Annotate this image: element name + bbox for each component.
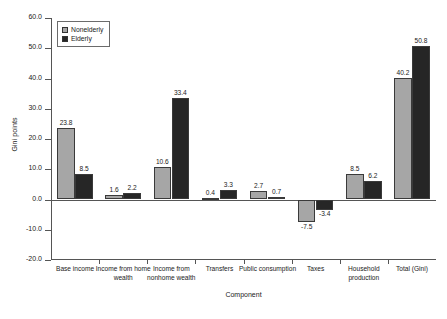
x-axis-tick	[340, 260, 341, 264]
x-axis-tick	[244, 260, 245, 264]
x-axis-title: Component	[51, 291, 436, 298]
legend-swatch-icon-nonelderly	[62, 27, 68, 33]
bar-value-label: -7.5	[294, 223, 320, 231]
bar	[172, 98, 190, 199]
bar-group: 1.62.2	[99, 18, 147, 260]
x-axis-tick	[195, 260, 196, 264]
legend-label-elderly: Elderly	[71, 35, 92, 42]
bar-group: 8.56.2	[340, 18, 388, 260]
x-axis-tick	[388, 260, 389, 264]
bar	[364, 181, 382, 200]
y-axis-tick-label: 20.0	[28, 134, 42, 141]
bar	[75, 174, 93, 200]
bar	[123, 193, 141, 200]
bar	[202, 198, 220, 200]
y-axis-tick-label: 60.0	[28, 13, 42, 20]
bar-group: 2.70.7	[244, 18, 292, 260]
bar-value-label: 3.3	[216, 181, 242, 189]
y-axis-tick-label: 30.0	[28, 104, 42, 111]
y-axis-tick-label: -10.0	[26, 225, 42, 232]
y-axis-tick: -20.0	[45, 260, 51, 261]
y-axis-tick-label: 0.0	[32, 195, 42, 202]
bar-value-label: 0.7	[264, 188, 290, 196]
bar	[268, 197, 286, 199]
bar-value-label: 50.8	[408, 37, 434, 45]
y-axis-tick-label: 40.0	[28, 74, 42, 81]
bar-value-label: 8.5	[71, 165, 97, 173]
bar-group: 40.250.8	[388, 18, 436, 260]
bar-group: 0.43.3	[195, 18, 243, 260]
bar	[105, 195, 123, 200]
bar	[57, 128, 75, 200]
x-axis-tick	[99, 260, 100, 264]
y-axis-title: Gini points	[11, 100, 18, 170]
bar-value-label: 6.2	[360, 172, 386, 180]
bar-value-label: 23.8	[53, 119, 79, 127]
chart-legend: Nonelderly Elderly	[57, 21, 110, 47]
bar-value-label: -3.4	[312, 210, 338, 218]
x-axis-tick	[147, 260, 148, 264]
y-axis-tick-label: 50.0	[28, 43, 42, 50]
bar	[412, 46, 430, 200]
bar-group: 23.88.5	[51, 18, 99, 260]
bar-value-label: 33.4	[168, 89, 194, 97]
bar	[316, 200, 334, 210]
bar-value-label: 2.2	[119, 184, 145, 192]
x-axis-tick	[292, 260, 293, 264]
legend-label-nonelderly: Nonelderly	[71, 26, 104, 33]
plot-area: 60.050.040.030.020.010.00.0-10.0-20.0 23…	[51, 18, 436, 260]
bar-group: -7.5-3.4	[292, 18, 340, 260]
bar	[220, 190, 238, 200]
bar	[394, 78, 412, 200]
x-axis-category-label: Total (Gini)	[382, 265, 442, 274]
y-axis-tick-label: 10.0	[28, 164, 42, 171]
legend-item-nonelderly: Nonelderly	[62, 25, 104, 34]
y-axis-tick-label: -20.0	[26, 255, 42, 262]
chart-figure: Gini points 60.050.040.030.020.010.00.0-…	[0, 0, 447, 319]
legend-item-elderly: Elderly	[62, 34, 104, 43]
legend-swatch-icon-elderly	[62, 36, 68, 42]
bar-group: 10.633.4	[147, 18, 195, 260]
bar	[154, 167, 172, 199]
